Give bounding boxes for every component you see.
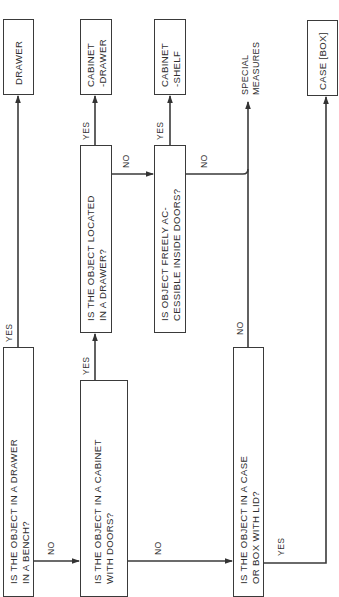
outcome-case-box-label: CASE [BOX] <box>317 32 329 90</box>
q5-yes-label: YES <box>276 538 286 556</box>
q1-yes-label: YES <box>4 324 14 342</box>
q2-yes-label: YES <box>81 357 91 375</box>
question-drawer-in-bench-box: IS THE OBJECT IN A DRAWER IN A BENCH? <box>3 347 34 597</box>
question-case-with-lid-text: IS THE OBJECT IN A CASE OR BOX WITH LID? <box>238 456 261 584</box>
q2-no-label: NO <box>153 541 163 555</box>
outcome-cabinet-drawer-box: CABINET -DRAWER <box>80 19 112 95</box>
outcome-special-measures-label: SPECIAL MEASURES <box>240 42 261 95</box>
outcome-drawer-box: DRAWER <box>3 19 34 95</box>
q1-no-label: NO <box>46 541 56 555</box>
q4-no-label: NO <box>199 154 209 168</box>
q5-no-label: NO <box>235 321 245 335</box>
outcome-cabinet-drawer-label: CABINET -DRAWER <box>85 39 108 87</box>
outcome-case-box-box: CASE [BOX] <box>307 20 338 96</box>
q4-yes-label: YES <box>155 122 165 140</box>
question-located-in-drawer-text: IS THE OBJECT LOCATED IN A DRAWER? <box>85 195 108 321</box>
question-freely-accessible-box: IS OBJECT FREELY AC- CESSIBLE INSIDE DOO… <box>154 145 186 333</box>
question-located-in-drawer-box: IS THE OBJECT LOCATED IN A DRAWER? <box>80 145 112 333</box>
question-cabinet-with-doors-text: IS THE OBJECT IN A CABINET WITH DOORS? <box>92 439 115 584</box>
outcome-drawer-label: DRAWER <box>13 41 25 85</box>
outcome-cabinet-shelf-box: CABINET -SHELF <box>154 19 186 95</box>
question-cabinet-with-doors-box: IS THE OBJECT IN A CABINET WITH DOORS? <box>80 380 128 597</box>
q3-yes-label: YES <box>81 122 91 140</box>
question-case-with-lid-box: IS THE OBJECT IN A CASE OR BOX WITH LID? <box>233 347 264 597</box>
q3-no-label: NO <box>121 154 131 168</box>
outcome-cabinet-shelf-label: CABINET -SHELF <box>159 43 182 87</box>
question-freely-accessible-text: IS OBJECT FREELY AC- CESSIBLE INSIDE DOO… <box>159 189 182 321</box>
question-drawer-in-bench-text: IS THE OBJECT IN A DRAWER IN A BENCH? <box>8 439 31 584</box>
